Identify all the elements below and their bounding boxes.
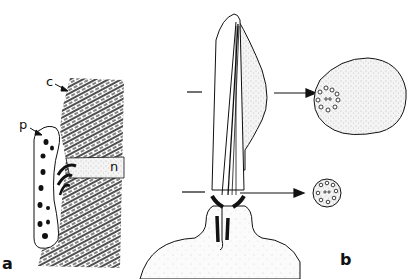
arrow-upper-section — [274, 89, 316, 97]
panel-b-sensillum — [140, 14, 316, 279]
label-nerve: n — [110, 160, 118, 173]
label-cuticle: c — [46, 75, 53, 88]
scientific-figure — [0, 0, 416, 279]
arrow-lower-section — [240, 189, 304, 197]
panel-label-a: a — [2, 256, 13, 272]
arrow-c — [55, 84, 68, 91]
upper-cross-section — [314, 58, 406, 135]
sensillum-shaft — [212, 14, 244, 190]
label-papilla: p — [19, 118, 27, 131]
panel-label-b: b — [340, 252, 351, 268]
socket-base — [140, 206, 300, 279]
lower-cross-section — [313, 179, 341, 207]
